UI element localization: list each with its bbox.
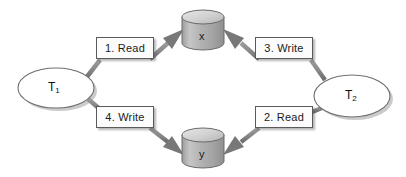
data-item-cylinder-x[interactable] [182,10,224,50]
arrowhead-to-x-right [223,29,244,49]
transaction-node-t2[interactable] [314,75,390,117]
operation-label-1-read[interactable]: 1. Read [96,37,154,59]
data-item-cylinder-y[interactable] [182,128,224,168]
operation-label-2-read[interactable]: 2. Read [255,106,313,128]
diagram-canvas [0,0,406,177]
transaction-node-t1[interactable] [18,68,94,108]
operation-label-4-write[interactable]: 4. Write [96,106,154,128]
arrowhead-to-y-right [223,136,244,155]
operation-label-3-write[interactable]: 3. Write [255,37,313,59]
